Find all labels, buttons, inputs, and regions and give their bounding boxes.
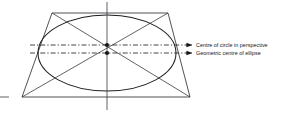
figure-container: Centre of circle in perspective Geometri… xyxy=(0,0,297,115)
centre-point-perspective xyxy=(105,43,109,47)
label-geometric-centre-of-ellipse: Geometric centre of ellipse xyxy=(196,50,261,56)
perspective-circle-diagram xyxy=(0,0,297,115)
centre-point-geometric xyxy=(105,51,109,55)
perspective-square-outline xyxy=(22,13,190,97)
label-centre-of-circle-in-perspective: Centre of circle in perspective xyxy=(196,42,268,48)
